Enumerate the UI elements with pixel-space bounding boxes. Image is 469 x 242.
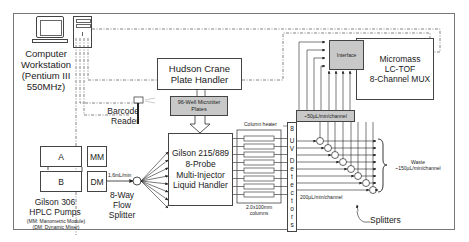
microtiter-plates-box: 96-Well Microtiter Plates bbox=[170, 96, 228, 116]
computer-tower-icon bbox=[73, 16, 92, 48]
computer-keyboard-icon bbox=[32, 39, 68, 43]
pumps-legend: (MM: Manometric Module) (DM: Dynamic Mix… bbox=[16, 219, 96, 231]
interface-box: Interface bbox=[329, 40, 364, 70]
pump-b-box: B bbox=[40, 171, 82, 192]
liquid-handler-box: Gilson 215/889 8-Probe Multi-Injector Li… bbox=[168, 133, 233, 206]
uv-detectors-box: 8 U V D e t e c t o r s bbox=[287, 122, 297, 232]
dynamic-mixer-box: DM bbox=[87, 171, 107, 192]
computer-label: Computer Workstation (Pentium III 550MHz… bbox=[18, 49, 74, 93]
computer-monitor-icon bbox=[36, 16, 64, 38]
plate-handler-box: Hudson Crane Plate Handler bbox=[157, 58, 242, 90]
ms-box: Micromass LC-TOF 8-Channel MUX bbox=[356, 38, 434, 100]
pump-a-box: A bbox=[40, 146, 82, 167]
ms-flow-box: ~50µL/min/channel bbox=[296, 110, 355, 122]
manometric-module-box: MM bbox=[87, 146, 107, 167]
waste-label: Waste ~150µL/min/channel bbox=[388, 160, 448, 172]
pumps-label: Gilson 306 HPLC Pumps bbox=[20, 198, 90, 218]
barcode-reader-label: Barcode Reader bbox=[103, 107, 139, 127]
flow-splitter-label: 8-Way Flow Splitter bbox=[107, 191, 137, 220]
columns-label: 2.0x100mm columns bbox=[236, 205, 282, 217]
splitters-label: Splitters bbox=[370, 216, 401, 226]
flow-rate-label: 1.6mL/min bbox=[108, 173, 131, 179]
channel-flow-label: 200µL/min/channel bbox=[300, 195, 342, 201]
column-heater-label: Column heater bbox=[244, 122, 277, 128]
